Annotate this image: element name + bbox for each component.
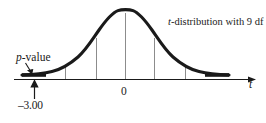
test-statistic-arrow — [31, 81, 37, 100]
p-value-arrow — [26, 63, 33, 74]
origin-tick-label: 0 — [121, 86, 127, 98]
p-value-arrowhead — [28, 70, 32, 74]
x-axis-label: t — [249, 79, 252, 91]
t-distribution-figure: p-value t-distribution with 9 df 0 –3.00… — [0, 0, 266, 123]
p-value-label: p-value — [16, 52, 50, 64]
x-axis — [14, 76, 256, 82]
distribution-label-text: -distribution with 9 df — [171, 16, 263, 27]
p-value-label-text: -value — [22, 51, 51, 63]
test-statistic-label: –3.00 — [18, 100, 43, 112]
test-statistic-arrowhead — [31, 81, 37, 88]
distribution-label: t-distribution with 9 df — [168, 17, 263, 28]
